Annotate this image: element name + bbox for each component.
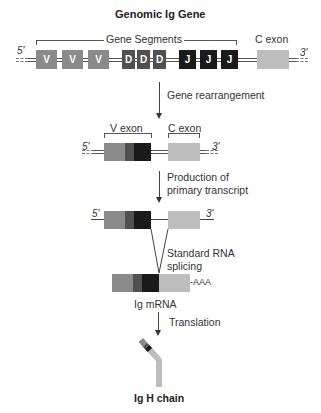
ig-h-chain-shape	[0, 0, 321, 413]
protein-label: Ig H chain	[134, 392, 184, 404]
